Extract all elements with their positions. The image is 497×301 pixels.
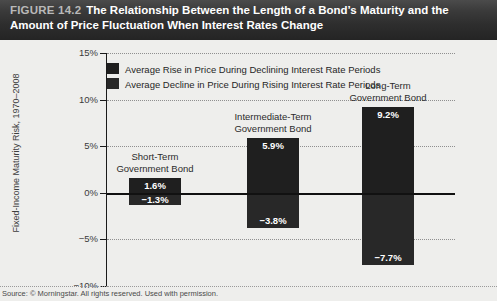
legend-swatch-icon [107, 78, 119, 89]
y-axis-tick [100, 193, 107, 194]
y-axis-tick [100, 100, 107, 101]
legend-swatch-icon [107, 63, 119, 74]
zero-baseline [106, 193, 455, 195]
figure-header: FIGURE 14.2The Relationship Between the … [0, 0, 497, 40]
legend-label: Average Decline in Price During Rising I… [125, 79, 380, 90]
figure-number: FIGURE 14.2 [10, 4, 81, 16]
value-label-negative: −7.7% [362, 252, 414, 263]
y-axis-tick-label: 0% [38, 187, 98, 198]
value-label-positive: 1.6% [129, 180, 181, 191]
y-axis-tick-label: 5% [38, 140, 98, 151]
value-label-positive: 5.9% [247, 140, 299, 151]
legend-item[interactable]: Average Rise in Price During Declining I… [107, 59, 380, 72]
category-label: Short-TermGovernment Bond [90, 151, 220, 175]
chart-panel: Fixed-Income Maturity Risk, 1970–2008 15… [0, 40, 497, 288]
category-label-line-2: Government Bond [208, 123, 338, 135]
y-axis-tick-label: −5% [38, 233, 98, 244]
figure-container: FIGURE 14.2The Relationship Between the … [0, 0, 497, 301]
source-note-text: Source: © Morningstar. All rights reserv… [0, 288, 497, 300]
category-label-line-2: Government Bond [90, 163, 220, 175]
bottom-divider [0, 286, 497, 287]
figure-title-text-1: The Relationship Between the Length of a… [86, 4, 448, 16]
y-axis-tick-labels: 15%10%5%0%−5%−10% [32, 53, 98, 286]
category-label-line-2: Government Bond [323, 92, 453, 104]
plot-area: Short-TermGovernment Bond1.6%−1.3%Interm… [107, 53, 455, 286]
figure-title-line-2: Amount of Price Fluctuation When Interes… [10, 18, 487, 33]
category-label-line-1: Short-Term [90, 151, 220, 163]
y-axis-tick-label: 10% [38, 94, 98, 105]
category-label: Intermediate-TermGovernment Bond [208, 111, 338, 135]
source-note: Source: © Morningstar. All rights reserv… [0, 288, 497, 301]
y-axis-tick [100, 53, 107, 54]
gridline [107, 53, 455, 54]
legend-item[interactable]: Average Decline in Price During Rising I… [107, 74, 380, 87]
y-axis-title: Fixed-Income Maturity Risk, 1970–2008 [11, 53, 21, 253]
y-axis-tick-label: 15% [38, 47, 98, 58]
category-label-line-1: Intermediate-Term [208, 111, 338, 123]
figure-title-line-1: FIGURE 14.2The Relationship Between the … [10, 3, 487, 18]
value-label-negative: −1.3% [129, 194, 181, 205]
value-label-positive: 9.2% [362, 109, 414, 120]
y-axis-tick [100, 146, 107, 147]
value-label-negative: −3.8% [247, 215, 299, 226]
y-axis-tick [100, 239, 107, 240]
